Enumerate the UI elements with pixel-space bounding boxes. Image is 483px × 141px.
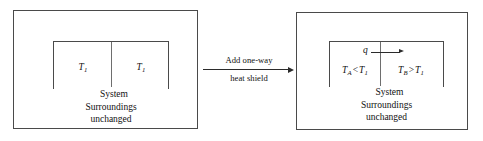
left-cell-a-temperature: T1: [68, 62, 98, 72]
right-cell-a-subscript: A: [347, 69, 351, 76]
transition-label-below: heat shield: [203, 73, 295, 84]
right-surroundings-line1: Surroundings: [308, 99, 465, 111]
right-cell-a-temperature: TA<T1: [331, 65, 379, 75]
transition-arrow: [203, 66, 295, 73]
transition-arrow-group: Add one-way heat shield: [203, 55, 295, 84]
right-system-caption: System: [329, 87, 450, 98]
left-cell-b-temperature-subscript: 1: [142, 66, 145, 73]
heat-flux-arrow-line: [371, 52, 400, 53]
right-surroundings-panel: q TA<T1 TB>T1 System Surroundings unchan…: [296, 12, 468, 130]
heat-flux-arrow-icon: [399, 49, 404, 53]
left-system-caption: System: [53, 89, 175, 100]
left-surroundings-line2: unchanged: [33, 113, 189, 125]
right-cell-b-subscript: B: [403, 69, 407, 76]
right-cell-a-compare-subscript: 1: [364, 69, 367, 76]
left-surroundings-panel: T1 T1 System Surroundings unchanged: [13, 10, 198, 129]
transition-label-above: Add one-way: [203, 55, 295, 66]
heat-flux-symbol: q: [363, 45, 368, 55]
right-cell-b-compare-subscript: 1: [420, 69, 423, 76]
right-system-box: q TA<T1 TB>T1: [329, 41, 444, 93]
right-arrow-icon: [288, 67, 294, 73]
left-partition-divider: [111, 42, 112, 87]
left-cell-a-temperature-subscript: 1: [84, 66, 87, 73]
right-surroundings-line2: unchanged: [308, 111, 465, 123]
left-surroundings-caption: Surroundings unchanged: [33, 101, 189, 125]
right-cell-a-relation: <: [352, 65, 359, 75]
right-cell-b-relation: >: [408, 65, 415, 75]
left-cell-b-temperature: T1: [126, 62, 156, 72]
right-cell-b-temperature: TB>T1: [387, 65, 435, 75]
transition-arrow-line: [203, 69, 289, 70]
left-surroundings-line1: Surroundings: [33, 101, 189, 113]
left-system-box: T1 T1: [53, 41, 169, 95]
right-surroundings-caption: Surroundings unchanged: [308, 99, 465, 123]
right-partition-heat-shield: [380, 42, 381, 86]
